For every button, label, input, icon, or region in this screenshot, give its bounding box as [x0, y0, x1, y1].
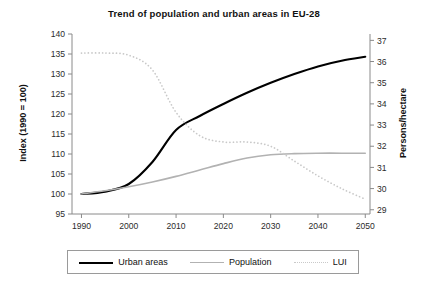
svg-text:2020: 2020: [214, 221, 233, 231]
svg-text:110: 110: [51, 149, 65, 159]
svg-text:31: 31: [377, 163, 387, 173]
svg-text:95: 95: [55, 209, 65, 219]
plot-area: 95100105110115120125130135140 2930313233…: [0, 0, 428, 285]
series-line-urban-areas: [81, 57, 365, 194]
svg-text:130: 130: [51, 69, 66, 79]
svg-text:125: 125: [51, 89, 66, 99]
legend-swatch-urban-areas-icon: [79, 258, 113, 266]
svg-text:37: 37: [377, 36, 387, 46]
axis-spines: [72, 34, 370, 214]
svg-text:32: 32: [377, 141, 387, 151]
svg-text:34: 34: [377, 99, 387, 109]
y-axis-right-ticks: 293031323334353637: [370, 36, 387, 215]
svg-text:135: 135: [51, 49, 66, 59]
svg-text:30: 30: [377, 184, 387, 194]
legend-label-lui: LUI: [333, 257, 347, 267]
data-series-group: [81, 53, 365, 199]
svg-text:120: 120: [51, 109, 66, 119]
svg-text:115: 115: [51, 129, 65, 139]
legend-item-urban-areas[interactable]: Urban areas: [79, 257, 168, 267]
legend-item-population[interactable]: Population: [190, 257, 272, 267]
series-line-lui: [81, 53, 365, 199]
svg-text:2040: 2040: [308, 221, 327, 231]
legend-swatch-population-icon: [190, 258, 224, 266]
svg-text:1990: 1990: [72, 221, 91, 231]
svg-text:33: 33: [377, 120, 387, 130]
svg-text:29: 29: [377, 205, 387, 215]
svg-text:140: 140: [51, 29, 66, 39]
svg-text:2000: 2000: [119, 221, 138, 231]
svg-text:35: 35: [377, 78, 387, 88]
legend-label-population: Population: [229, 257, 272, 267]
legend-item-lui[interactable]: LUI: [294, 257, 347, 267]
svg-text:105: 105: [51, 169, 66, 179]
svg-text:2030: 2030: [261, 221, 280, 231]
legend-label-urban-areas: Urban areas: [118, 257, 168, 267]
svg-text:100: 100: [51, 189, 66, 199]
chart-legend: Urban areas Population LUI: [67, 250, 359, 274]
legend-swatch-lui-icon: [294, 258, 328, 266]
y-axis-left-ticks: 95100105110115120125130135140: [51, 29, 72, 219]
chart-container: Trend of population and urban areas in E…: [0, 0, 428, 285]
svg-text:2050: 2050: [356, 221, 375, 231]
svg-text:36: 36: [377, 57, 387, 67]
x-axis-ticks: 1990200020102020203020402050: [72, 214, 375, 231]
series-line-population: [81, 153, 365, 194]
svg-text:2010: 2010: [167, 221, 186, 231]
